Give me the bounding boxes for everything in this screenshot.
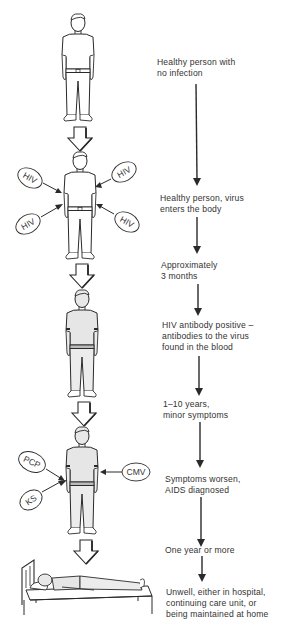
hiv-oval-bottom-right: HIV	[96, 204, 143, 236]
illustration-layer: HIV HIV HIV HIV	[0, 0, 298, 632]
timeline-arrow-icon	[194, 284, 202, 316]
timeline-arrow-icon	[195, 356, 203, 396]
stage-label-minor-symptoms: 1–10 years, minor symptoms	[163, 399, 228, 421]
figure-aids-diagnosed	[66, 427, 98, 534]
stage-label-antibody-positive: HIV antibody positive – antibodies to th…	[162, 320, 253, 353]
pcp-oval: PCP	[15, 447, 65, 481]
stage-label-aids-diagnosed: Symptoms worsen, AIDS diagnosed	[165, 474, 240, 496]
stage-label-unwell: Unwell, either in hospital, continuing c…	[166, 587, 269, 620]
hiv-progression-diagram: HIV HIV HIV HIV	[0, 0, 298, 632]
ks-oval: KS	[16, 480, 67, 514]
timeline-arrow-icon	[197, 497, 205, 547]
hiv-oval-bottom-left: HIV	[12, 204, 63, 238]
hiv-oval-top-right: HIV	[95, 158, 140, 188]
stage-label-one-year: One year or more	[165, 545, 235, 556]
figure-virus-enters	[64, 152, 96, 259]
timeline-arrow-icon	[193, 217, 201, 254]
cmv-oval: CMV	[100, 463, 150, 481]
stage-label-three-months: Approximately 3 months	[161, 260, 217, 282]
hiv-oval-top-left: HIV	[14, 164, 62, 193]
transition-arrow-icon	[74, 540, 98, 564]
stage-label-healthy: Healthy person with no infection	[157, 57, 235, 79]
timeline-arrow-icon	[193, 84, 201, 186]
transition-arrow-icon	[72, 402, 96, 426]
figure-person-in-bed	[22, 560, 152, 615]
transition-arrow-icon	[70, 264, 94, 288]
figure-antibody-positive	[66, 290, 98, 397]
svg-text:CMV: CMV	[127, 467, 146, 477]
timeline-arrow-icon	[198, 556, 206, 582]
transition-arrow-icon	[68, 127, 92, 151]
stage-label-virus-enters: Healthy person, virus enters the body	[160, 193, 244, 215]
figure-healthy-person	[62, 14, 94, 121]
timeline-arrow-icon	[196, 422, 204, 468]
